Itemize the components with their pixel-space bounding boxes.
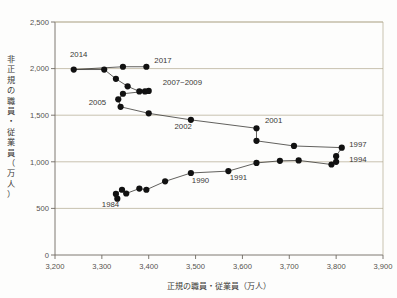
data-point [291, 143, 297, 149]
x-tick-label: 3,600 [233, 262, 252, 271]
data-point [339, 145, 345, 151]
annotation-label: 2007~2009 [163, 78, 202, 87]
y-tick-label: 0 [45, 251, 49, 260]
point-annotations: 201420172007~200920052002200119971994199… [70, 50, 367, 208]
y-axis-title-char: 人 [7, 179, 15, 189]
annotation-label: 1997 [349, 140, 366, 149]
y-tick-label: 500 [36, 204, 49, 213]
annotation-label: 1984 [102, 200, 120, 209]
data-point [120, 91, 126, 97]
x-tick-label: 3,500 [186, 262, 205, 271]
x-axis-title-text: 正規の職員・従業員（万人） [167, 281, 271, 291]
data-point [136, 185, 142, 191]
x-tick-label: 3,800 [327, 262, 346, 271]
annotation-label: 2017 [154, 56, 171, 65]
data-point [146, 110, 152, 116]
data-point [101, 66, 107, 72]
data-point [162, 178, 168, 184]
data-point [253, 160, 259, 166]
data-point [71, 66, 77, 72]
x-tick-label: 3,200 [45, 262, 64, 271]
y-axis-ticks: 05001,0001,5002,0002,500 [30, 18, 55, 260]
x-tick-label: 3,900 [373, 262, 392, 271]
data-point [115, 96, 121, 102]
y-axis-title-char: 職 [7, 96, 15, 106]
y-axis-title-char: 従 [7, 127, 15, 137]
scatter-chart: 3,2003,3003,4003,5003,6003,7003,8003,900… [0, 0, 397, 298]
annotation-label: 1991 [230, 173, 247, 182]
x-tick-label: 3,400 [139, 262, 158, 271]
chart-container: 3,2003,3003,4003,5003,6003,7003,8003,900… [0, 0, 397, 298]
y-tick-label: 1,000 [30, 158, 49, 167]
y-axis-title-char: 規 [7, 75, 15, 85]
data-point [253, 125, 259, 131]
y-axis-title-char: 万 [7, 168, 15, 178]
y-axis-title-char: （ [7, 158, 15, 168]
x-tick-label: 3,700 [280, 262, 299, 271]
data-point [142, 88, 148, 94]
y-axis-title-char: 非 [7, 54, 15, 64]
annotation-label: 1990 [192, 176, 210, 185]
data-point [296, 157, 302, 163]
y-axis-title-char: ・ [7, 116, 15, 126]
x-axis-ticks: 3,2003,3003,4003,5003,6003,7003,8003,900 [45, 255, 392, 271]
data-point [143, 64, 149, 70]
axis-lines [55, 22, 383, 255]
annotation-label: 2014 [70, 50, 88, 59]
data-point [253, 138, 259, 144]
y-axis-title-char: 員 [7, 106, 15, 116]
y-tick-label: 1,500 [30, 111, 49, 120]
data-point [277, 158, 283, 164]
y-tick-label: 2,500 [30, 18, 49, 27]
data-point [113, 76, 119, 82]
data-point [136, 88, 142, 94]
x-axis-title: 正規の職員・従業員（万人） [167, 281, 271, 291]
y-tick-label: 2,000 [30, 64, 49, 73]
y-axis-title-char: 員 [7, 148, 15, 158]
data-point [125, 83, 131, 89]
y-axis-title-char: 業 [7, 137, 15, 147]
data-point [123, 190, 129, 196]
gridlines [55, 22, 383, 208]
y-axis-title-char: の [7, 85, 15, 95]
data-point [118, 104, 124, 110]
y-axis-title-char: 正 [7, 64, 15, 74]
data-point [113, 191, 119, 197]
annotation-label: 2001 [265, 116, 282, 125]
data-point [188, 170, 194, 176]
annotation-label: 1994 [349, 155, 367, 164]
annotation-label: 2002 [174, 122, 191, 131]
data-point [333, 159, 339, 165]
y-axis-title-char: ） [7, 189, 15, 199]
annotation-label: 2005 [89, 98, 107, 107]
data-point [333, 153, 339, 159]
x-tick-label: 3,300 [92, 262, 111, 271]
data-point [143, 187, 149, 193]
data-point [120, 64, 126, 70]
y-axis-title: 非正規の職員・従業員（万人） [7, 54, 15, 199]
